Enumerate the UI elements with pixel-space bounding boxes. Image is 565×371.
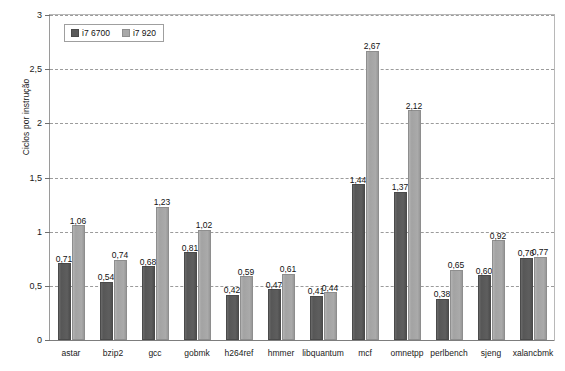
bar-omnetpp-series-0: 1,37 — [394, 192, 407, 340]
legend-swatch-icon-series-1 — [122, 29, 130, 37]
bar-h264ref-series-0: 0,42 — [226, 295, 239, 341]
x-axis-label-astar: astar — [62, 348, 81, 358]
bar-astar-series-1: 1,06 — [72, 225, 85, 340]
bar-perlbench-series-0: 0,38 — [436, 299, 449, 340]
x-axis-label-xalancbmk: xalancbmk — [513, 348, 554, 358]
bar-sjeng-series-1: 0,92 — [492, 240, 505, 340]
bar-value-label: 0,81 — [182, 244, 199, 253]
chart-legend: i7 6700 i7 920 — [64, 24, 164, 42]
bar-gobmk-series-0: 0,81 — [184, 252, 197, 340]
x-axis-label-gcc: gcc — [148, 348, 161, 358]
bar-h264ref-series-1: 0,59 — [240, 276, 253, 340]
bar-value-label: 1,02 — [196, 221, 213, 230]
x-axis-label-bzip2: bzip2 — [103, 348, 123, 358]
y-axis-tick-label: 1 — [37, 227, 42, 237]
x-axis-label-omnetpp: omnetpp — [390, 348, 423, 358]
bar-value-label: 0,54 — [98, 273, 115, 282]
bar-libquantum-series-0: 0,41 — [310, 296, 323, 340]
bar-group: 0,711,06astar — [50, 15, 92, 340]
x-axis-label-mcf: mcf — [358, 348, 372, 358]
x-axis-label-sjeng: sjeng — [481, 348, 501, 358]
bar-value-label: 0,60 — [476, 267, 493, 276]
y-axis-tick-label: 2 — [37, 118, 42, 128]
bar-value-label: 0,42 — [224, 286, 241, 295]
bar-group: 1,442,67mcf — [344, 15, 386, 340]
bar-value-label: 1,44 — [350, 176, 367, 185]
bar-group: 0,380,65perlbench — [428, 15, 470, 340]
bar-hmmer-series-0: 0,47 — [268, 289, 281, 340]
y-axis-tick-label: 3 — [37, 10, 42, 20]
bar-omnetpp-series-1: 2,12 — [408, 110, 421, 340]
legend-item-series-1: i7 920 — [122, 28, 156, 38]
bar-value-label: 1,23 — [154, 198, 171, 207]
legend-label-series-0: i7 6700 — [82, 28, 110, 38]
bar-group: 1,372,12omnetpp — [386, 15, 428, 340]
bar-value-label: 2,67 — [364, 42, 381, 51]
bar-xalancbmk-series-1: 0,77 — [534, 257, 547, 340]
bar-mcf-series-1: 2,67 — [366, 51, 379, 340]
bar-value-label: 0,71 — [56, 255, 73, 264]
bar-group: 0,681,23gcc — [134, 15, 176, 340]
bar-value-label: 0,38 — [434, 290, 451, 299]
bar-libquantum-series-1: 0,44 — [324, 292, 337, 340]
bar-bzip2-series-1: 0,74 — [114, 260, 127, 340]
bar-value-label: 0,44 — [322, 284, 339, 293]
bar-group: 0,420,59h264ref — [218, 15, 260, 340]
bar-astar-series-0: 0,71 — [58, 263, 71, 340]
bar-group: 0,540,74bzip2 — [92, 15, 134, 340]
bar-chart: Ciclos por instrução 00,511,522,530,711,… — [0, 0, 565, 371]
x-axis-label-hmmer: hmmer — [268, 348, 294, 358]
x-axis-label-gobmk: gobmk — [184, 348, 210, 358]
bar-value-label: 0,65 — [448, 261, 465, 270]
legend-item-series-0: i7 6700 — [71, 28, 110, 38]
x-axis-label-perlbench: perlbench — [430, 348, 467, 358]
gridline — [50, 340, 554, 341]
bar-group: 0,600,92sjeng — [470, 15, 512, 340]
bar-value-label: 0,59 — [238, 268, 255, 277]
legend-swatch-icon-series-0 — [71, 29, 79, 37]
x-axis-label-h264ref: h264ref — [225, 348, 254, 358]
bar-value-label: 0,47 — [266, 281, 283, 290]
y-axis-tick-label: 2,5 — [29, 64, 42, 74]
bar-value-label: 0,68 — [140, 258, 157, 267]
y-axis-tick-label: 1,5 — [29, 173, 42, 183]
bar-group: 0,760,77xalancbmk — [512, 15, 554, 340]
bar-value-label: 0,74 — [112, 251, 129, 260]
bar-perlbench-series-1: 0,65 — [450, 270, 463, 340]
bar-group: 0,410,44libquantum — [302, 15, 344, 340]
bar-mcf-series-0: 1,44 — [352, 184, 365, 340]
bar-value-label: 0,92 — [490, 232, 507, 241]
y-axis-tick-label: 0 — [37, 335, 42, 345]
y-axis-tick — [45, 340, 50, 341]
x-axis-label-libquantum: libquantum — [302, 348, 344, 358]
bar-sjeng-series-0: 0,60 — [478, 275, 491, 340]
bar-hmmer-series-1: 0,61 — [282, 274, 295, 340]
bar-gobmk-series-1: 1,02 — [198, 230, 211, 341]
bar-group: 0,811,02gobmk — [176, 15, 218, 340]
bar-value-label: 1,37 — [392, 183, 409, 192]
bar-value-label: 0,77 — [532, 248, 549, 257]
bar-gcc-series-1: 1,23 — [156, 207, 169, 340]
y-axis-tick-label: 0,5 — [29, 281, 42, 291]
bar-value-label: 2,12 — [406, 102, 423, 111]
bar-xalancbmk-series-0: 0,76 — [520, 258, 533, 340]
legend-label-series-1: i7 920 — [133, 28, 156, 38]
bar-value-label: 0,61 — [280, 265, 297, 274]
plot-area: 00,511,522,530,711,06astar0,540,74bzip20… — [50, 15, 554, 340]
bar-gcc-series-0: 0,68 — [142, 266, 155, 340]
bar-value-label: 1,06 — [70, 217, 87, 226]
bar-group: 0,470,61hmmer — [260, 15, 302, 340]
bar-bzip2-series-0: 0,54 — [100, 282, 113, 341]
